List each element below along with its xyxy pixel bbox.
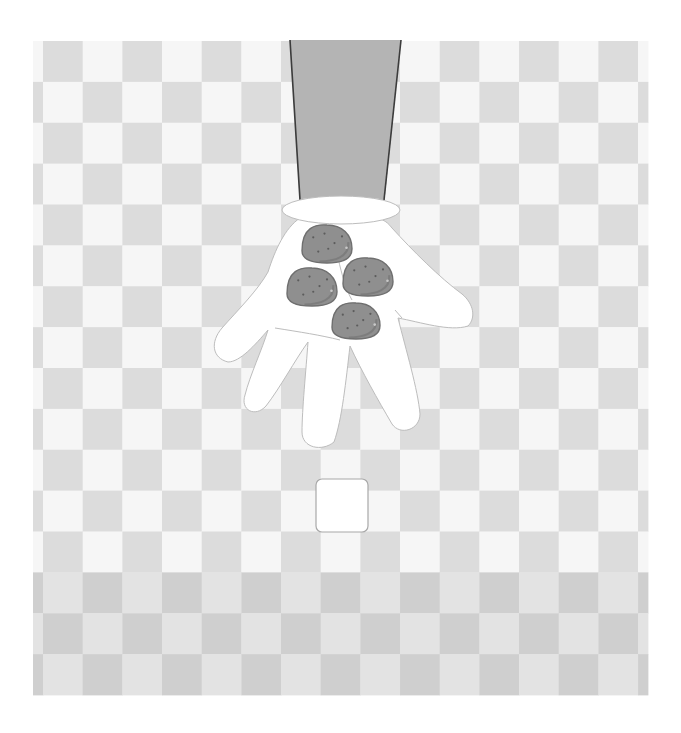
- checker-tile: [321, 572, 361, 613]
- checker-tile: [162, 286, 202, 327]
- checker-tile: [400, 164, 440, 205]
- checker-tile: [122, 41, 162, 82]
- checker-tile: [638, 41, 648, 82]
- checker-tile: [321, 654, 361, 695]
- checker-tile: [559, 245, 599, 286]
- checker-tile: [598, 409, 638, 450]
- checker-tile: [400, 654, 440, 695]
- checker-tile: [83, 532, 123, 573]
- checker-tile: [519, 409, 559, 450]
- checker-tile: [479, 491, 519, 532]
- checker-tile: [281, 654, 321, 695]
- checker-tile: [43, 41, 83, 82]
- checker-tile: [202, 572, 242, 613]
- checker-tile: [241, 123, 281, 164]
- checker-tile: [122, 491, 162, 532]
- checker-tile: [519, 368, 559, 409]
- checker-tile: [479, 286, 519, 327]
- checker-tile: [559, 613, 599, 654]
- checker-tile: [400, 41, 440, 82]
- checker-tile: [202, 368, 242, 409]
- checker-tile: [33, 164, 43, 205]
- checker-tile: [83, 245, 123, 286]
- checker-tile: [638, 613, 648, 654]
- checker-tile: [400, 450, 440, 491]
- checker-tile: [33, 572, 43, 613]
- checker-tile: [83, 654, 123, 695]
- checker-tile: [559, 82, 599, 123]
- checker-tile: [440, 327, 480, 368]
- checker-tile: [122, 409, 162, 450]
- checker-tile: [162, 491, 202, 532]
- checker-tile: [519, 123, 559, 164]
- checker-tile: [638, 532, 648, 573]
- checker-tile: [479, 164, 519, 205]
- checker-tile: [33, 327, 43, 368]
- checker-tile: [479, 82, 519, 123]
- checker-tile: [202, 409, 242, 450]
- checker-tile: [202, 532, 242, 573]
- checker-tile: [83, 205, 123, 246]
- illustration: Sleeve / arm White glove hand Potato 1Po…: [0, 0, 681, 733]
- checker-tile: [559, 491, 599, 532]
- checker-tile: [202, 491, 242, 532]
- checker-tile: [479, 613, 519, 654]
- checker-tile: [519, 450, 559, 491]
- checker-tile: [83, 123, 123, 164]
- checker-tile: [598, 532, 638, 573]
- checker-tile: [638, 409, 648, 450]
- checker-tile: [241, 491, 281, 532]
- checker-tile: [479, 368, 519, 409]
- checker-tile: [202, 613, 242, 654]
- checker-tile: [43, 286, 83, 327]
- checker-tile: [519, 613, 559, 654]
- checker-tile: [43, 450, 83, 491]
- checker-tile: [479, 450, 519, 491]
- checker-tile: [162, 450, 202, 491]
- checker-tile: [479, 245, 519, 286]
- checker-tile: [43, 613, 83, 654]
- checker-tile: [43, 123, 83, 164]
- checker-tile: [241, 164, 281, 205]
- checker-tile: [638, 164, 648, 205]
- checker-tile: [638, 286, 648, 327]
- checker-tile: [122, 572, 162, 613]
- potato: Potato 3: [343, 258, 393, 296]
- checker-tile: [202, 82, 242, 123]
- empty-box[interactable]: Empty white box: [316, 479, 368, 532]
- checker-tile: [519, 532, 559, 573]
- checker-tile: [43, 654, 83, 695]
- checker-tile: [281, 532, 321, 573]
- checker-tile: [202, 450, 242, 491]
- checker-tile: [479, 572, 519, 613]
- checker-tile: [122, 123, 162, 164]
- checker-tile: [162, 41, 202, 82]
- checker-tile: [241, 82, 281, 123]
- checker-tile: [33, 205, 43, 246]
- checker-tile: [479, 205, 519, 246]
- checker-tile: [33, 286, 43, 327]
- checker-tile: [479, 654, 519, 695]
- checker-tile: [241, 41, 281, 82]
- checker-tile: [519, 654, 559, 695]
- checker-tile: [519, 245, 559, 286]
- checker-tile: [519, 82, 559, 123]
- checker-tile: [400, 613, 440, 654]
- checker-tile: [559, 572, 599, 613]
- checker-tile: [360, 532, 400, 573]
- checker-tile: [559, 327, 599, 368]
- checker-tile: [598, 123, 638, 164]
- checker-tile: [33, 82, 43, 123]
- checker-tile: [122, 532, 162, 573]
- checker-tile: [440, 450, 480, 491]
- checker-tile: [400, 572, 440, 613]
- checker-tile: [638, 327, 648, 368]
- checker-tile: [598, 572, 638, 613]
- checker-tile: [281, 613, 321, 654]
- checker-tile: [400, 82, 440, 123]
- checker-tile: [33, 654, 43, 695]
- checker-tile: [241, 654, 281, 695]
- checker-tile: [519, 41, 559, 82]
- checker-tile: [559, 205, 599, 246]
- potato: Potato 1: [302, 225, 352, 263]
